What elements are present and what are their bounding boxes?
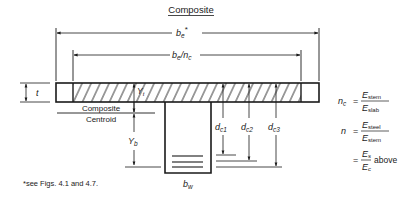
nc-denominator: Eslab	[362, 103, 380, 113]
diagram-title: Composite	[168, 4, 213, 15]
svg-text:=: =	[353, 96, 358, 106]
alt-denominator: Ec	[362, 162, 371, 172]
svg-text:=: =	[353, 126, 358, 136]
centroid-label-line2: Centroid	[86, 115, 116, 124]
effective-width-label: be*	[176, 25, 188, 39]
alt-suffix: above	[374, 155, 397, 165]
web-stem: bw	[165, 102, 211, 190]
transformed-width-label: be/nc	[172, 50, 192, 61]
slab-thickness-label: t	[36, 88, 39, 98]
transformed-width-dimension: be/nc	[73, 50, 301, 81]
svg-text:=: =	[353, 155, 358, 165]
n-denominator: Estem	[362, 133, 381, 143]
transformed-slab-hatch	[73, 83, 301, 102]
alt-numerator: Es	[362, 149, 371, 159]
composite-centroid: Composite Centroid	[57, 104, 155, 124]
footnote: *see Figs. 4.1 and 4.7.	[23, 179, 98, 188]
composite-section-diagram: Composite be* be/nc t	[0, 0, 411, 199]
nc-numerator: Estem	[362, 90, 381, 100]
depth-dc1-label: dc1	[215, 122, 227, 133]
centroid-label-line1: Composite	[82, 104, 121, 113]
n-numerator: Esteel	[362, 120, 381, 130]
modular-ratio-equations: nc = Estem Eslab n = Esteel Estem = Es E…	[338, 90, 397, 172]
slab	[56, 83, 319, 102]
depth-dc2-label: dc2	[241, 122, 253, 133]
depth-dc3-label: dc3	[268, 122, 280, 133]
slab-thickness-dimension: t	[20, 83, 50, 102]
nc-symbol: nc	[338, 96, 347, 107]
web-width-label: bw	[183, 179, 194, 190]
n-symbol: n	[341, 126, 346, 136]
y-bottom-label: Yb	[128, 136, 138, 147]
